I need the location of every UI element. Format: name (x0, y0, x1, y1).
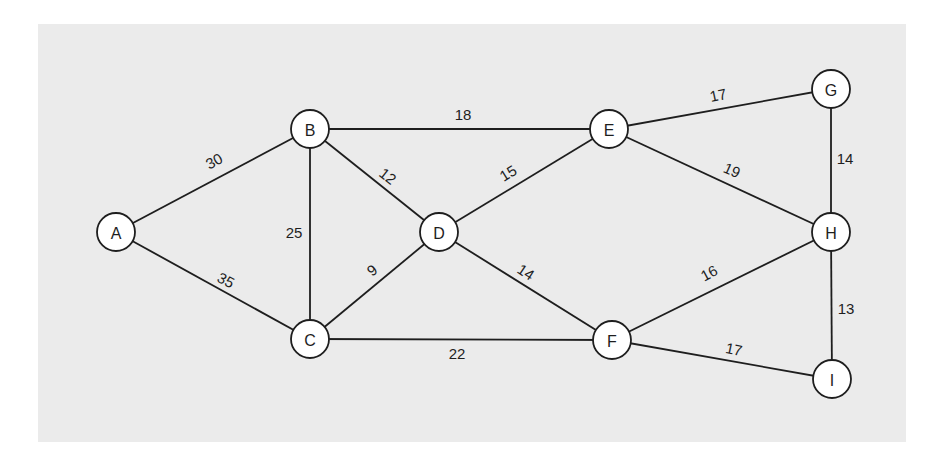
node-label-f: F (607, 333, 617, 350)
edge-weight-h-i: 13 (838, 300, 855, 317)
edge-weight-b-c: 25 (286, 224, 303, 241)
node-label-b: B (305, 122, 316, 139)
node-label-i: I (830, 372, 834, 389)
edge-a-c (116, 232, 310, 339)
edges-layer (116, 89, 832, 379)
node-label-d: D (433, 225, 445, 242)
edge-weight-f-h: 16 (698, 262, 721, 285)
edge-c-f (310, 339, 612, 340)
node-i: I (813, 360, 851, 398)
node-label-a: A (111, 225, 122, 242)
graph-diagram: 30352512189221514171914161713 ABCDEFGHI (0, 0, 940, 460)
node-label-e: E (604, 122, 615, 139)
edge-e-h (609, 129, 831, 232)
edge-weight-c-f: 22 (449, 345, 466, 362)
edge-f-h (612, 232, 831, 340)
node-h: H (812, 213, 850, 251)
edge-weight-e-g: 17 (708, 85, 728, 105)
node-label-h: H (825, 225, 837, 242)
edge-c-d (310, 232, 439, 339)
edge-weight-d-e: 15 (496, 161, 519, 184)
node-label-c: C (304, 332, 316, 349)
node-c: C (291, 320, 329, 358)
node-label-g: G (825, 82, 837, 99)
edge-weight-e-h: 19 (721, 159, 743, 181)
node-d: D (420, 213, 458, 251)
node-b: B (291, 110, 329, 148)
edge-weight-c-d: 9 (363, 261, 380, 280)
edge-a-b (116, 129, 310, 232)
edge-weight-b-e: 18 (455, 106, 472, 123)
node-e: E (590, 110, 628, 148)
edge-d-e (439, 129, 609, 232)
edge-weight-a-b: 30 (203, 150, 226, 173)
edge-weight-g-h: 14 (837, 150, 854, 167)
edge-d-f (439, 232, 612, 340)
edge-b-d (310, 129, 439, 232)
edge-weight-f-i: 17 (724, 339, 744, 359)
node-a: A (97, 213, 135, 251)
node-f: F (593, 321, 631, 359)
node-g: G (812, 70, 850, 108)
edge-h-i (831, 232, 832, 379)
edge-f-i (612, 340, 832, 379)
